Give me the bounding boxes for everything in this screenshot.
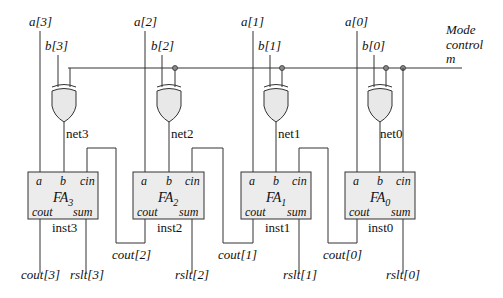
input-a1-label: a[1] [241,14,264,29]
fa3-port-cout: cout [32,205,53,219]
xor-gate-icon [368,85,392,123]
input-a2-label: a[2] [134,14,157,29]
fa0-port-sum: sum [391,205,411,219]
inst1-label: inst1 [265,220,290,235]
input-b3-label: b[3] [45,38,68,53]
junction-dot-icon [173,66,178,71]
output-rslt2-label: rslt[2] [175,267,209,282]
fa1-port-sum: sum [287,205,307,219]
stage-2: a[2] b[2] net2 a b cin FA2 cout sum inst… [112,14,253,282]
mode-label-m: m [446,51,455,66]
fa0-port-cout: cout [349,205,370,219]
adder-subtractor-diagram: Mode control m a[3] b[3] net3 a b cin FA… [0,0,503,298]
fa2-port-b: b [166,174,172,188]
xor-gate-icon [264,85,288,123]
mode-label-line2: control [446,37,483,52]
stage-1: a[1] b[1] net1 a b cin FA1 cout sum inst… [218,14,357,282]
fa1-port-cout: cout [245,205,266,219]
fa0-port-a: a [353,174,359,188]
inst2-label: inst2 [157,220,182,235]
inst3-label: inst3 [52,220,77,235]
net3-label: net3 [66,126,88,141]
fa2-port-cin: cin [185,174,200,188]
input-a0-label: a[0] [345,14,368,29]
fa2-port-a: a [141,174,147,188]
output-rslt3-label: rslt[3] [70,267,104,282]
output-rslt0-label: rslt[0] [386,267,420,282]
fa2-port-sum: sum [179,205,199,219]
input-b1-label: b[1] [258,38,281,53]
fa0-port-b: b [377,174,383,188]
fa2-port-cout: cout [137,205,158,219]
net1-label: net1 [278,126,300,141]
xor-gate-icon [157,85,181,123]
output-cout0-label: cout[0] [323,247,362,262]
junction-dot-icon [280,66,285,71]
fa3-port-b: b [60,174,66,188]
output-cout3-label: cout[3] [21,267,60,282]
output-rslt1-label: rslt[1] [283,267,317,282]
fa1-port-a: a [249,174,255,188]
output-cout2-label: cout[2] [112,247,151,262]
inst0-label: inst0 [368,220,393,235]
mode-label-line1: Mode [445,22,476,37]
fa3-port-sum: sum [73,205,93,219]
output-cout1-label: cout[1] [218,247,257,262]
input-b0-label: b[0] [362,38,385,53]
stage-0: a[0] b[0] net0 a b cin FA0 cout sum inst… [323,14,420,282]
net2-label: net2 [171,126,193,141]
stage-3: a[3] b[3] net3 a b cin FA3 cout sum inst… [21,14,145,282]
input-b2-label: b[2] [151,38,174,53]
xor-gate-icon [52,85,76,123]
fa3-port-cin: cin [80,174,95,188]
input-a3-label: a[3] [29,14,52,29]
junction-dot-icon [384,66,389,71]
fa1-port-cin: cin [292,174,307,188]
fa3-port-a: a [36,174,42,188]
fa0-port-cin: cin [396,174,411,188]
fa1-port-b: b [273,174,279,188]
net0-label: net0 [380,126,402,141]
